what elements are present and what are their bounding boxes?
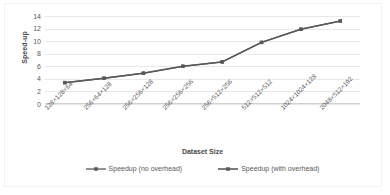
x-axis-title: Dataset Size xyxy=(45,148,360,155)
legend-marker-icon xyxy=(218,165,238,173)
y-tick-label: 2 xyxy=(11,88,41,95)
legend-item[interactable]: Speedup (no overhead) xyxy=(86,165,183,173)
legend-label: Speedup (no overhead) xyxy=(109,165,183,173)
legend-item[interactable]: Speedup (with overhead) xyxy=(218,165,319,173)
chart-legend: Speedup (no overhead)Speedup (with overh… xyxy=(45,165,360,173)
y-tick-label: 4 xyxy=(11,75,41,82)
data-point-marker xyxy=(181,65,184,68)
data-point-marker xyxy=(299,28,302,31)
data-point-marker xyxy=(260,41,263,44)
series-layer xyxy=(45,16,360,104)
legend-label: Speedup (with overhead) xyxy=(241,165,319,173)
legend-marker-icon xyxy=(86,165,106,173)
data-point-marker xyxy=(102,77,105,80)
chart-container: Speed-up 02468101214 128×128×64256×64×12… xyxy=(0,0,390,195)
y-tick-label: 8 xyxy=(11,50,41,57)
data-point-marker xyxy=(220,60,223,63)
y-axis-ticks: 02468101214 xyxy=(8,16,41,104)
y-tick-label: 14 xyxy=(11,13,41,20)
y-tick-label: 10 xyxy=(11,38,41,45)
y-tick-label: 0 xyxy=(11,101,41,108)
data-point-marker xyxy=(142,72,145,75)
y-tick-label: 6 xyxy=(11,63,41,70)
x-axis-ticks: 128×128×64256×64×128256×256×128256×256×2… xyxy=(45,104,360,148)
y-tick-label: 12 xyxy=(11,25,41,32)
data-point-marker xyxy=(339,19,342,22)
series-line xyxy=(65,21,341,83)
